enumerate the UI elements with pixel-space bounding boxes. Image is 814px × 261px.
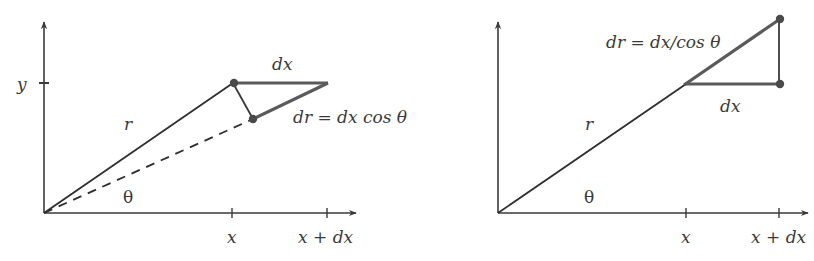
right-r-label: r	[585, 114, 594, 134]
left-diagram: y x x + dx r θ dx dr = dx cos θ	[16, 22, 407, 247]
right-theta-label: θ	[584, 187, 594, 207]
left-y-label: y	[16, 74, 27, 94]
left-r-label: r	[124, 114, 133, 134]
left-perpendicular-segment	[233, 83, 253, 119]
left-x-plus-dx-label: x + dx	[298, 227, 354, 247]
left-point-upper	[230, 79, 238, 87]
left-r-line	[44, 83, 233, 213]
left-point-lower	[249, 115, 257, 123]
right-dx-label: dx	[720, 96, 741, 116]
right-point-lower	[776, 80, 784, 88]
left-dashed-line	[44, 119, 253, 213]
right-diagram: x x + dx r θ dx dr = dx/cos θ	[498, 15, 808, 247]
right-dr-label: dr = dx/cos θ	[606, 32, 720, 52]
left-x-label: x	[227, 227, 237, 247]
right-x-label: x	[681, 227, 691, 247]
right-dr-segment	[684, 19, 780, 85]
left-dx-label: dx	[272, 54, 293, 74]
right-point-upper	[776, 15, 784, 23]
right-x-plus-dx-label: x + dx	[751, 227, 807, 247]
left-dr-label: dr = dx cos θ	[293, 107, 407, 127]
polar-differential-diagrams: y x x + dx r θ dx dr = dx cos θ x x + dx…	[0, 0, 814, 261]
left-theta-label: θ	[123, 187, 133, 207]
